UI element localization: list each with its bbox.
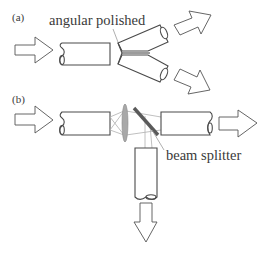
panel-a: (a) angular polished: [12, 11, 211, 94]
input-arrow-b-icon: [15, 106, 53, 133]
output-arrow-straight-icon: [219, 110, 257, 137]
panel-b-label: (b): [12, 93, 25, 106]
panel-b: (b): [12, 93, 257, 242]
beam-splitter-label: beam splitter: [166, 147, 241, 163]
output-fiber-straight: [161, 112, 212, 135]
output-arrow-lower-icon: [174, 69, 210, 94]
input-fiber: [60, 43, 110, 65]
lens-icon: [122, 104, 128, 142]
beam-splitter-icon: [134, 108, 158, 135]
output-arrow-down-icon: [134, 203, 157, 242]
panel-a-label: (a): [12, 11, 25, 24]
output-fiber-down: [135, 148, 157, 199]
fiber-coupler-diagram: (a) angular polished: [0, 0, 270, 256]
angular-polished-split-fiber: [118, 25, 169, 82]
angular-polished-label: angular polished: [49, 12, 146, 28]
output-arrow-upper-icon: [174, 11, 211, 35]
input-fiber-b: [60, 112, 110, 135]
input-arrow-icon: [15, 37, 53, 63]
